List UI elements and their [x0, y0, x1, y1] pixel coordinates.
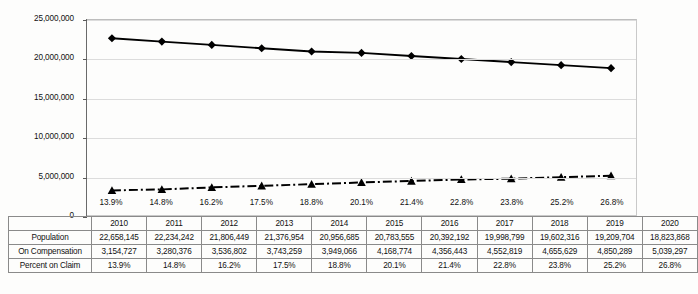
table-cell: 17.5%	[257, 259, 312, 273]
table-cell: 21,806,449	[202, 231, 257, 245]
data-point-marker	[607, 64, 615, 72]
table-row: Population22,658,14522,234,24221,806,449…	[9, 231, 698, 245]
table-cell: 20,392,192	[422, 231, 477, 245]
percent-label: 21.4%	[400, 199, 423, 207]
data-point-marker	[208, 41, 216, 49]
table-cell: 25.2%	[587, 259, 642, 273]
y-axis-tick-label: 20,000,000	[34, 54, 74, 62]
percent-label: 13.9%	[99, 199, 122, 207]
y-axis-tick-label: 25,000,000	[34, 15, 74, 23]
table-cell: 19,209,704	[587, 231, 642, 245]
table-cell: 4,552,819	[477, 245, 532, 259]
y-axis-labels: 05,000,00010,000,00015,000,00020,000,000…	[0, 0, 82, 232]
y-axis-tick	[83, 20, 87, 21]
table-cell: 20,783,555	[367, 231, 422, 245]
table-cell: 22,658,145	[92, 231, 147, 245]
data-point-marker	[108, 34, 116, 42]
gridline	[87, 99, 636, 100]
table-year-header: 2014	[312, 217, 367, 231]
percent-label: 25.2%	[550, 199, 573, 207]
data-point-marker	[158, 38, 166, 46]
table-header-row: 2010201120122013201420152016201720182019…	[9, 217, 698, 231]
table-cell: 20,956,685	[312, 231, 367, 245]
table-cell: 4,168,774	[367, 245, 422, 259]
percent-label: 14.8%	[150, 199, 173, 207]
table-cell: 23.8%	[532, 259, 587, 273]
table-cell: 3,743,259	[257, 245, 312, 259]
table-cell: 18,823,868	[642, 231, 697, 245]
table-cell: 4,655,629	[532, 245, 587, 259]
gridline	[87, 138, 636, 139]
gridline	[87, 20, 636, 21]
table-cell: 14.8%	[147, 259, 202, 273]
y-axis-tick-label: 10,000,000	[34, 133, 74, 141]
table-row: On Compensation3,154,7273,280,3763,536,8…	[9, 245, 698, 259]
y-axis-tick	[83, 59, 87, 60]
data-table-body: 2010201120122013201420152016201720182019…	[9, 217, 698, 273]
gridline	[87, 59, 636, 60]
data-point-marker	[357, 178, 366, 186]
table-year-header: 2010	[92, 217, 147, 231]
percent-label: 22.8%	[450, 199, 473, 207]
table-cell: 3,536,802	[202, 245, 257, 259]
table-year-header: 2019	[587, 217, 642, 231]
data-table: 2010201120122013201420152016201720182019…	[8, 216, 698, 273]
plot-area	[86, 19, 637, 216]
table-row-label: Percent on Claim	[9, 259, 92, 273]
table-row-label: Population	[9, 231, 92, 245]
table-row: Percent on Claim13.9%14.8%16.2%17.5%18.8…	[9, 259, 698, 273]
y-axis-tick-label: 15,000,000	[34, 94, 74, 102]
table-cell: 21.4%	[422, 259, 477, 273]
y-axis-tick	[83, 138, 87, 139]
table-year-header: 2015	[367, 217, 422, 231]
table-year-header: 2017	[477, 217, 532, 231]
gridline	[87, 178, 636, 179]
table-cell: 22,234,242	[147, 231, 202, 245]
table-cell: 13.9%	[92, 259, 147, 273]
table-cell: 4,356,443	[422, 245, 477, 259]
percent-label: 20.1%	[350, 199, 373, 207]
percent-point-labels: 13.9%14.8%16.2%17.5%18.8%20.1%21.4%22.8%…	[86, 199, 637, 215]
table-cell: 19,602,316	[532, 231, 587, 245]
y-axis-tick	[83, 99, 87, 100]
table-year-header: 2018	[532, 217, 587, 231]
table-cell: 18.8%	[312, 259, 367, 273]
chart-series-svg	[87, 20, 636, 215]
table-year-header: 2020	[642, 217, 697, 231]
percent-label: 26.8%	[600, 199, 623, 207]
percent-label: 16.2%	[200, 199, 223, 207]
table-row-label: On Compensation	[9, 245, 92, 259]
table-cell: 26.8%	[642, 259, 697, 273]
table-cell: 5,039,297	[642, 245, 697, 259]
data-point-marker	[258, 44, 266, 52]
table-corner-cell	[9, 217, 92, 231]
table-year-header: 2013	[257, 217, 312, 231]
table-cell: 3,280,376	[147, 245, 202, 259]
table-year-header: 2011	[147, 217, 202, 231]
table-cell: 3,154,727	[92, 245, 147, 259]
table-cell: 20.1%	[367, 259, 422, 273]
data-table-container: 2010201120122013201420152016201720182019…	[8, 216, 638, 273]
table-cell: 22.8%	[477, 259, 532, 273]
table-cell: 16.2%	[202, 259, 257, 273]
table-cell: 21,376,954	[257, 231, 312, 245]
y-axis-tick	[83, 178, 87, 179]
table-year-header: 2012	[202, 217, 257, 231]
data-point-marker	[308, 47, 316, 55]
percent-label: 17.5%	[250, 199, 273, 207]
data-point-marker	[557, 61, 565, 69]
series-population	[108, 34, 615, 72]
table-cell: 4,850,289	[587, 245, 642, 259]
percent-label: 18.8%	[300, 199, 323, 207]
data-point-marker	[357, 49, 365, 57]
y-axis-tick-label: 5,000,000	[38, 172, 74, 180]
table-cell: 3,949,066	[312, 245, 367, 259]
data-point-marker	[307, 180, 316, 188]
series-on-compensation	[108, 171, 616, 194]
table-year-header: 2016	[422, 217, 477, 231]
line-chart: 05,000,00010,000,00015,000,00020,000,000…	[0, 0, 673, 232]
table-cell: 19,998,799	[477, 231, 532, 245]
percent-label: 23.8%	[500, 199, 523, 207]
